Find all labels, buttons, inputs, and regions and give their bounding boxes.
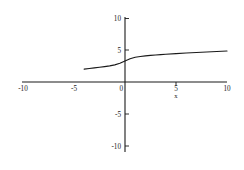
y-tick-label-5: 5 [117, 47, 121, 55]
curve-series [84, 51, 227, 69]
x-tick-label-10: 10 [223, 85, 231, 93]
x-tick-label-minus5: -5 [71, 85, 77, 93]
y-tick-label-10: 10 [114, 15, 122, 23]
y-tick-label-0: 0 [119, 85, 123, 93]
y-tick-label-minus5: -5 [115, 111, 121, 119]
function-plot: 10 5 0 -5 -10 -10 -5 5 10 x [0, 0, 244, 170]
chart-figure: 10 5 0 -5 -10 -10 -5 5 10 x [0, 0, 244, 170]
y-tick-label-minus10: -10 [111, 143, 121, 151]
x-tick-label-minus10: -10 [18, 85, 28, 93]
